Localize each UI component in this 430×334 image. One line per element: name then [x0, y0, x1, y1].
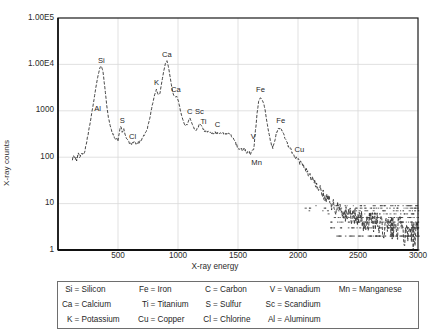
peak-label-potassium: K	[154, 78, 159, 87]
legend-symbol: Cu	[134, 313, 148, 328]
legend-equals: =	[211, 313, 220, 328]
legend-symbol: V	[262, 282, 275, 297]
y-tick-label: 1.00E4	[28, 59, 54, 68]
legend-equals: =	[72, 297, 81, 312]
legend-symbol: Ca	[58, 297, 72, 312]
legend-definition: Aluminum	[284, 313, 334, 328]
x-tick-label: 1500	[229, 251, 247, 260]
y-axis-tick-labels: 1.00E51.00E41000100101	[0, 0, 430, 270]
peak-label-silicon: Si	[98, 56, 105, 65]
peak-label-aluminum: Al	[94, 104, 101, 113]
legend-row: K=PotassiumCu=CopperCl=ChlorineAl=Alumin…	[58, 313, 418, 328]
legend-symbol: Si	[58, 282, 72, 297]
legend-definition: Silicon	[81, 282, 134, 297]
x-tick-label: 2500	[349, 251, 367, 260]
x-axis-title: X-ray energy	[0, 262, 430, 271]
legend-definition: Vanadium	[284, 282, 334, 297]
legend-definition: Scandium	[284, 297, 334, 312]
legend-symbol: Ti	[134, 297, 148, 312]
x-tick-label: 500	[111, 251, 125, 260]
peak-label-sulfur: S	[120, 116, 125, 125]
legend-symbol	[334, 297, 350, 312]
peak-label-carbon: C	[215, 120, 220, 129]
y-tick-label: 1000	[36, 105, 54, 114]
peak-label-calcium: Ca	[162, 50, 172, 59]
y-axis-title: X-ray counts	[2, 172, 92, 186]
legend-symbol: Sc	[262, 297, 275, 312]
y-tick-label: 100	[40, 152, 54, 161]
y-tick-label: 1.00E5	[28, 13, 54, 22]
legend-equals	[350, 313, 359, 328]
legend-equals: =	[72, 282, 81, 297]
peak-label-calcium: Ca	[171, 85, 181, 94]
legend-definition: Calcium	[81, 297, 134, 312]
legend-definition: Manganese	[359, 282, 418, 297]
legend-row: Ca=CalciumTi=TitaniumS=SulfurSc=Scandium	[58, 297, 418, 312]
xray-spectrum-figure: 1.00E51.00E41000100101 50010001500200025…	[0, 0, 430, 334]
legend-equals: =	[72, 313, 81, 328]
element-legend-table: Si=SiliconFe=IronC=CarbonV=VanadiumMn=Ma…	[58, 282, 418, 328]
legend-symbol: Fe	[134, 282, 148, 297]
legend-definition: Carbon	[220, 282, 262, 297]
legend-equals: =	[350, 282, 359, 297]
legend-symbol: S	[200, 297, 211, 312]
legend-symbol: K	[58, 313, 72, 328]
legend-equals: =	[211, 282, 220, 297]
peak-label-vanadium: V	[251, 132, 256, 141]
x-tick-label: 3000	[409, 251, 427, 260]
peak-label-titanium: Ti	[200, 117, 206, 126]
peak-label-iron: Fe	[276, 116, 285, 125]
x-tick-label: 1000	[169, 251, 187, 260]
peak-label-carbon: C	[187, 107, 192, 116]
legend-equals: =	[275, 282, 284, 297]
peak-label-scandium: Sc	[195, 107, 204, 116]
peak-label-copper: Cu	[295, 145, 305, 154]
legend-equals: =	[149, 282, 158, 297]
legend-row: Si=SiliconFe=IronC=CarbonV=VanadiumMn=Ma…	[58, 282, 418, 297]
peak-label-iron: Fe	[256, 85, 265, 94]
legend-equals: =	[275, 313, 284, 328]
legend-definition: Potassium	[81, 313, 134, 328]
peak-label-manganese: Mn	[251, 158, 262, 167]
legend-equals: =	[149, 297, 158, 312]
legend-definition: Iron	[158, 282, 201, 297]
legend-equals: =	[149, 313, 158, 328]
legend-definition: Copper	[158, 313, 201, 328]
peak-label-chlorine: Cl	[129, 132, 136, 141]
x-tick-label: 2000	[289, 251, 307, 260]
legend-symbol	[334, 313, 350, 328]
legend-definition: Titanium	[158, 297, 201, 312]
legend-definition	[359, 313, 418, 328]
legend-definition: Sulfur	[220, 297, 262, 312]
legend-symbol: Cl	[200, 313, 211, 328]
legend-definition: Chlorine	[220, 313, 262, 328]
legend-equals: =	[275, 297, 284, 312]
legend-symbol: Mn	[334, 282, 350, 297]
y-tick-label: 10	[45, 198, 54, 207]
legend-symbol: Al	[262, 313, 275, 328]
legend-equals	[350, 297, 359, 312]
legend-definition	[359, 297, 418, 312]
legend-symbol: C	[200, 282, 211, 297]
legend-equals: =	[211, 297, 220, 312]
element-legend-box: Si=SiliconFe=IronC=CarbonV=VanadiumMn=Ma…	[57, 281, 419, 329]
